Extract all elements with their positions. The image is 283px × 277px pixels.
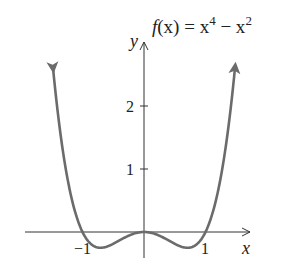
x-tick-label-1: 1 [201,240,209,257]
title-body: (x) = x [157,16,209,38]
title-minus: − x [216,16,246,37]
function-graph: −1 1 2 1 x y f(x) = x4 − x2 [0,0,283,277]
y-tick-label-1: 1 [126,161,134,178]
x-axis-label: x [241,238,250,258]
exponent-2: 2 [245,13,252,28]
function-title: f(x) = x4 − x2 [152,13,252,38]
y-tick-label-2: 2 [126,98,134,115]
x-tick-label-neg1: −1 [74,240,91,257]
y-axis-label: y [128,31,138,51]
